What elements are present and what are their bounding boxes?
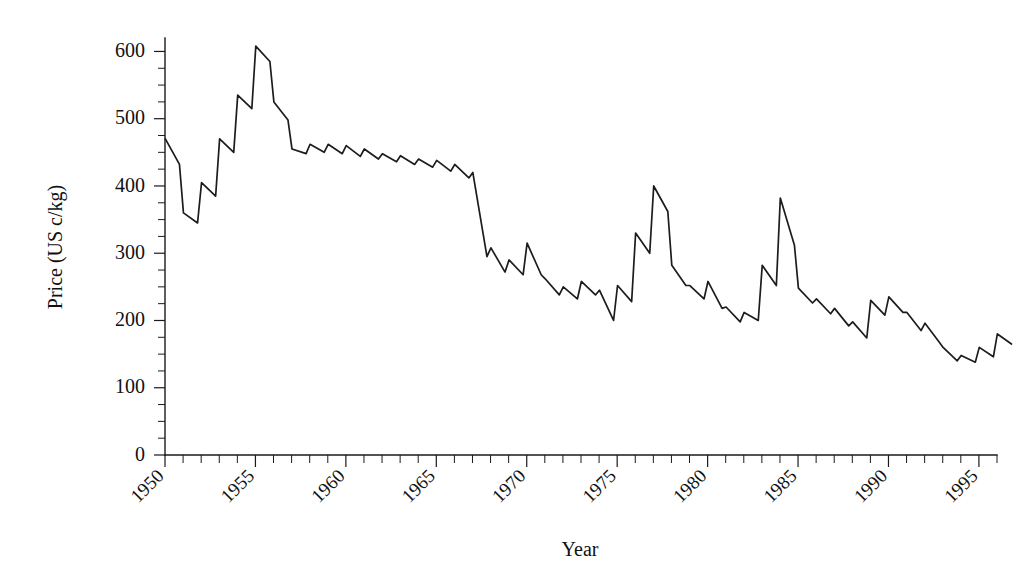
x-tick-label: 1970 bbox=[488, 465, 530, 507]
y-tick-label: 0 bbox=[135, 443, 145, 465]
y-axis-ticks bbox=[154, 51, 165, 455]
chart-figure: 0100200300400500600 19501955196019651970… bbox=[0, 0, 1033, 588]
x-tick-label: 1975 bbox=[578, 465, 620, 507]
x-tick-label: 1965 bbox=[397, 465, 439, 507]
price-series-line bbox=[165, 46, 1011, 362]
y-tick-label: 600 bbox=[115, 39, 145, 61]
y-tick-label: 500 bbox=[115, 106, 145, 128]
x-tick-label: 1995 bbox=[940, 465, 982, 507]
x-axis-tick-labels: 1950195519601965197019751980198519901995 bbox=[126, 465, 982, 507]
x-tick-label: 1980 bbox=[669, 465, 711, 507]
y-tick-label: 400 bbox=[115, 174, 145, 196]
x-tick-label: 1950 bbox=[126, 465, 168, 507]
x-tick-label: 1985 bbox=[759, 465, 801, 507]
chart-plot-svg: 0100200300400500600 19501955196019651970… bbox=[0, 0, 1033, 588]
axes-group bbox=[165, 38, 997, 455]
x-tick-label: 1955 bbox=[217, 465, 259, 507]
y-axis-title: Price (US c/kg) bbox=[44, 185, 67, 309]
x-tick-label: 1990 bbox=[850, 465, 892, 507]
y-tick-label: 100 bbox=[115, 375, 145, 397]
x-axis-ticks bbox=[165, 455, 997, 467]
y-tick-label: 300 bbox=[115, 241, 145, 263]
y-axis-tick-labels: 0100200300400500600 bbox=[115, 39, 145, 465]
y-tick-label: 200 bbox=[115, 308, 145, 330]
x-tick-label: 1960 bbox=[307, 465, 349, 507]
x-axis-title: Year bbox=[562, 538, 599, 560]
